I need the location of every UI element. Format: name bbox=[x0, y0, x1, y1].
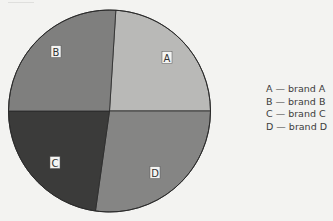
slice-label-c: C bbox=[52, 158, 59, 169]
pie-slice-d bbox=[95, 111, 210, 212]
slice-label-b: B bbox=[53, 47, 60, 58]
pie-slice-a bbox=[110, 10, 211, 111]
slice-label-a: A bbox=[164, 53, 171, 64]
chart-stage: ADCB A — brand A B — brand B C — brand C… bbox=[0, 0, 333, 221]
legend-item-d: D — brand D bbox=[266, 121, 327, 134]
legend-item-c: C — brand C bbox=[266, 108, 327, 121]
slice-label-d: D bbox=[151, 168, 159, 179]
legend: A — brand A B — brand B C — brand C D — … bbox=[266, 83, 327, 133]
pie-slices bbox=[9, 10, 211, 212]
legend-item-a: A — brand A bbox=[266, 83, 327, 96]
legend-item-b: B — brand B bbox=[266, 96, 327, 109]
pie-slice-b bbox=[9, 10, 116, 111]
